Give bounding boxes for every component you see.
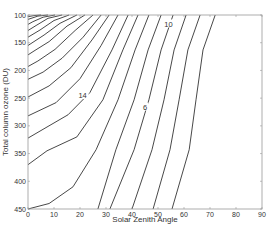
contour-lines xyxy=(28,15,215,209)
contour-labels: 10146 xyxy=(77,19,175,112)
x-tick-label: 10 xyxy=(50,211,58,218)
x-tick-label: 80 xyxy=(232,211,240,218)
x-tick-label: 20 xyxy=(76,211,84,218)
x-tick-label: 30 xyxy=(102,211,110,218)
x-axis: 0102030405060708090 xyxy=(26,15,266,218)
y-tick-label: 450 xyxy=(14,206,26,213)
contour-label: 10 xyxy=(164,20,172,29)
y-tick-label: 250 xyxy=(14,95,26,102)
x-tick-label: 90 xyxy=(258,211,266,218)
contour-line xyxy=(28,15,77,46)
contour-chart: 10146 0102030405060708090 10015020025030… xyxy=(0,0,270,233)
contour-line xyxy=(132,15,186,209)
contour-line xyxy=(28,15,101,79)
x-tick-label: 60 xyxy=(180,211,188,218)
contour-line xyxy=(28,15,109,97)
chart-canvas: 10146 0102030405060708090 10015020025030… xyxy=(0,0,270,233)
y-tick-label: 100 xyxy=(14,12,26,19)
x-tick-label: 70 xyxy=(206,211,214,218)
contour-line xyxy=(28,15,85,55)
y-axis-label: Total column ozone (DU) xyxy=(1,68,10,156)
x-axis-label: Solar Zenith Angle xyxy=(112,215,178,224)
y-tick-label: 400 xyxy=(14,178,26,185)
y-tick-label: 200 xyxy=(14,67,26,74)
contour-line xyxy=(98,15,161,209)
contour-label: 14 xyxy=(78,91,86,100)
y-tick-label: 350 xyxy=(14,150,26,157)
x-tick-label: 0 xyxy=(26,211,30,218)
contour-line xyxy=(28,15,128,138)
y-tick-label: 150 xyxy=(14,39,26,46)
contour-label: 6 xyxy=(143,103,147,112)
y-tick-label: 300 xyxy=(14,122,26,129)
contour-line xyxy=(153,15,200,209)
contour-line xyxy=(172,15,215,209)
